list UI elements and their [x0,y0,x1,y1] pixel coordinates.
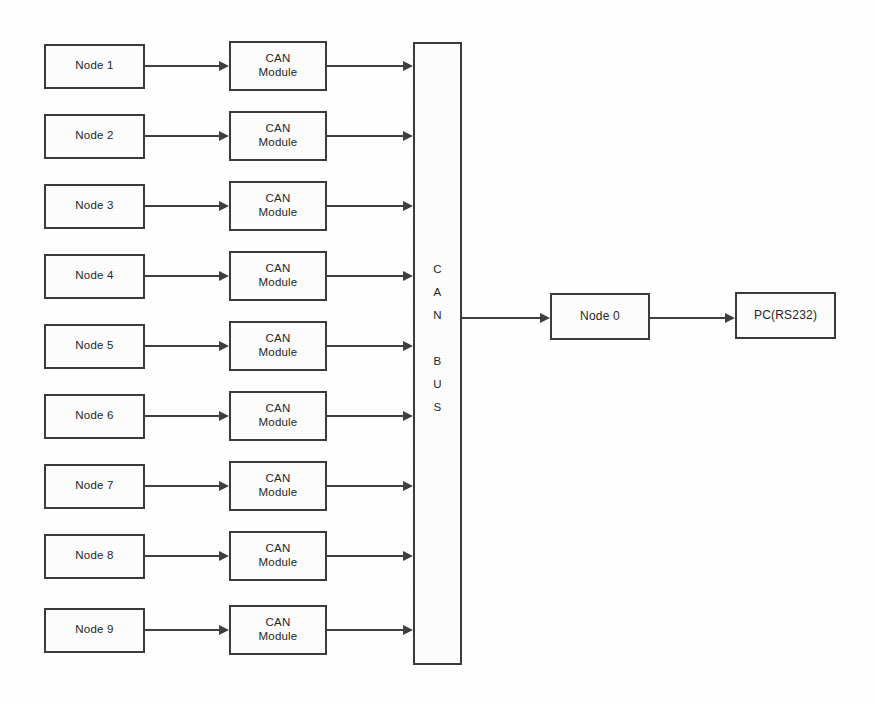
node-label-1: Node 1 [75,59,113,73]
node-box-5[interactable]: Node 5 [44,324,145,369]
can-module-box-6[interactable]: CAN Module [229,391,327,441]
arrowhead-node2-to-module [219,131,229,141]
node-label-6: Node 6 [75,409,113,423]
can-module-box-1[interactable]: CAN Module [229,41,327,91]
connector-node9-to-module [145,629,219,631]
connector-node2-to-module [145,135,219,137]
connector-node1-to-module [145,65,219,67]
can-module-label-1: CAN Module [259,52,298,79]
pc-rs232-label: PC(RS232) [754,308,817,322]
connector-bus-to-node0 [462,317,540,319]
can-bus-bar [413,42,462,665]
node-label-9: Node 9 [75,623,113,637]
connector-node7-to-module [145,485,219,487]
arrowhead-node0-to-pc [725,313,735,323]
can-module-box-4[interactable]: CAN Module [229,251,327,301]
arrowhead-node7-to-module [219,481,229,491]
connector-node8-to-module [145,555,219,557]
connector-node5-to-module [145,345,219,347]
arrowhead-module2-to-bus [403,131,413,141]
arrowhead-module9-to-bus [403,625,413,635]
node-0-label: Node 0 [580,309,620,323]
connector-node0-to-pc [650,317,725,319]
arrowhead-module1-to-bus [403,61,413,71]
can-module-label-9: CAN Module [259,616,298,643]
arrowhead-node9-to-module [219,625,229,635]
connector-module9-to-bus [327,629,403,631]
node-label-2: Node 2 [75,129,113,143]
node-box-6[interactable]: Node 6 [44,394,145,439]
arrowhead-module5-to-bus [403,341,413,351]
can-module-label-8: CAN Module [259,542,298,569]
arrowhead-node5-to-module [219,341,229,351]
connector-module8-to-bus [327,555,403,557]
node-box-4[interactable]: Node 4 [44,254,145,299]
node-label-8: Node 8 [75,549,113,563]
can-module-box-2[interactable]: CAN Module [229,111,327,161]
can-module-label-4: CAN Module [259,262,298,289]
arrowhead-module6-to-bus [403,411,413,421]
can-module-label-5: CAN Module [259,332,298,359]
arrowhead-node1-to-module [219,61,229,71]
arrowhead-node4-to-module [219,271,229,281]
node-0-box[interactable]: Node 0 [550,293,650,340]
connector-module4-to-bus [327,275,403,277]
connector-node4-to-module [145,275,219,277]
can-module-box-5[interactable]: CAN Module [229,321,327,371]
pc-rs232-box[interactable]: PC(RS232) [735,292,836,339]
arrowhead-module7-to-bus [403,481,413,491]
can-module-box-3[interactable]: CAN Module [229,181,327,231]
arrowhead-module3-to-bus [403,201,413,211]
node-box-7[interactable]: Node 7 [44,464,145,509]
can-bus-diagram-canvas: Node 1CAN ModuleNode 2CAN ModuleNode 3CA… [0,0,875,704]
arrowhead-module8-to-bus [403,551,413,561]
node-box-8[interactable]: Node 8 [44,534,145,579]
can-module-label-6: CAN Module [259,402,298,429]
arrowhead-module4-to-bus [403,271,413,281]
can-module-label-7: CAN Module [259,472,298,499]
arrowhead-node6-to-module [219,411,229,421]
arrowhead-node3-to-module [219,201,229,211]
node-label-4: Node 4 [75,269,113,283]
connector-module5-to-bus [327,345,403,347]
connector-module7-to-bus [327,485,403,487]
connector-module3-to-bus [327,205,403,207]
node-box-9[interactable]: Node 9 [44,608,145,653]
can-module-box-7[interactable]: CAN Module [229,461,327,511]
connector-module2-to-bus [327,135,403,137]
connector-module1-to-bus [327,65,403,67]
node-label-5: Node 5 [75,339,113,353]
node-box-2[interactable]: Node 2 [44,114,145,159]
arrowhead-bus-to-node0 [540,313,550,323]
connector-node6-to-module [145,415,219,417]
arrowhead-node8-to-module [219,551,229,561]
can-module-box-9[interactable]: CAN Module [229,605,327,655]
can-module-box-8[interactable]: CAN Module [229,531,327,581]
node-label-3: Node 3 [75,199,113,213]
can-module-label-2: CAN Module [259,122,298,149]
node-label-7: Node 7 [75,479,113,493]
connector-module6-to-bus [327,415,403,417]
connector-node3-to-module [145,205,219,207]
node-box-1[interactable]: Node 1 [44,44,145,89]
node-box-3[interactable]: Node 3 [44,184,145,229]
can-module-label-3: CAN Module [259,192,298,219]
